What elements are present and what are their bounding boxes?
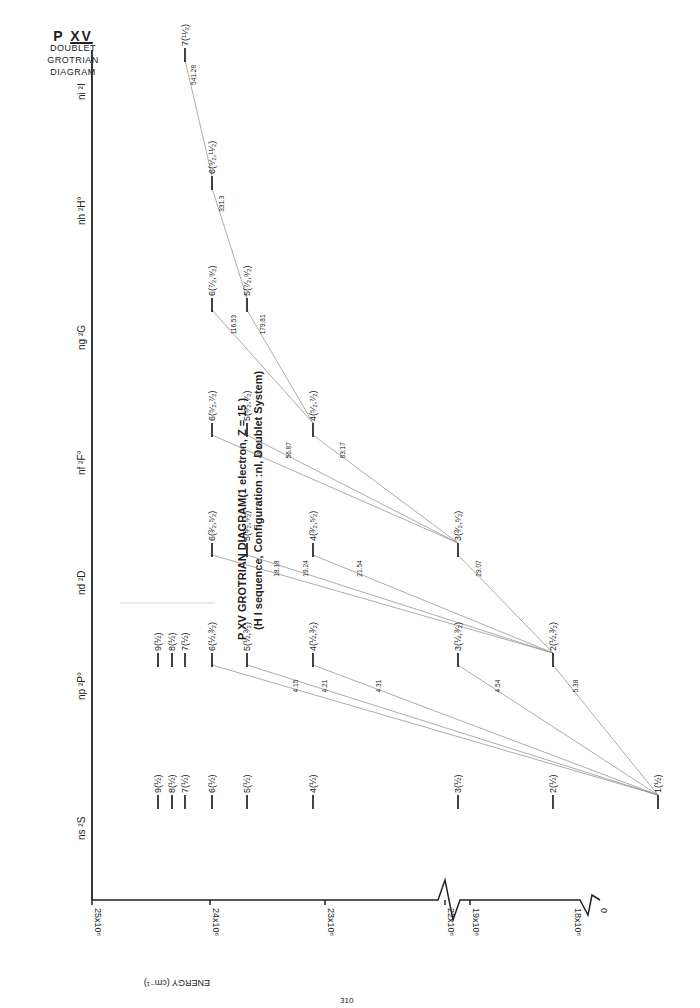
level-label: 5(⁷⁄₂,⁹⁄₂) [242, 265, 252, 296]
series-header: ns ²S [76, 816, 87, 840]
transition-wavelength: 116.53 [230, 315, 237, 335]
transition-wavelength: 4.21 [321, 679, 328, 692]
transition-wavelength: 18.18 [273, 560, 280, 577]
series-headers: ns ²Snp ²P°nd ²Dnf ²F°ng ²Gnh ²H°ni ²I [76, 83, 87, 840]
level-label: 5(½,³⁄₂) [242, 622, 252, 651]
level-label: 4(⁵⁄₂,⁷⁄₂) [308, 391, 318, 421]
transition-wavelength: 4.54 [494, 679, 501, 692]
level-label: 8(½) [167, 774, 177, 793]
level-label: 6(½,³⁄₂) [207, 622, 217, 651]
level-label: 1(½) [653, 774, 663, 793]
level-label: 4(³⁄₂,⁵⁄₂) [308, 511, 318, 541]
energy-tick-label: 25x10⁶ [93, 908, 103, 937]
level-label: 5(⁵⁄₂,⁷⁄₂) [242, 391, 252, 421]
transition-line [247, 555, 553, 653]
transition-wavelength: 29.07 [475, 560, 482, 577]
level-label: 9(½) [153, 632, 163, 651]
level-label: 2(½) [548, 774, 558, 793]
level-label: 6(³⁄₂,⁵⁄₂) [207, 511, 217, 541]
energy-axis-label: ENERGY (cm⁻¹) [144, 978, 210, 988]
transition-wavelength: 4.15 [292, 679, 299, 692]
transition-wavelength: 21.54 [356, 560, 363, 577]
level-label: 6(½) [207, 774, 217, 793]
level-label: 9(½) [153, 774, 163, 793]
transition-wavelength: 541.28 [190, 65, 197, 85]
diagram-subtitle: (H I sequence, Configuration :nl, Double… [252, 371, 264, 630]
transition-wavelength: 179.81 [259, 314, 266, 334]
transition-wavelength: 83.17 [339, 442, 346, 459]
series-header: nh ²H° [76, 197, 87, 225]
series-header: nf ²F° [76, 450, 87, 475]
energy-tick-label: 19x10⁶ [471, 908, 481, 937]
series-header: ng ²G [76, 325, 87, 350]
transition-line [458, 555, 553, 653]
energy-levels: 1(½)2(½)3(½)4(½)5(½)6(½)7(½)8(½)9(½)2(½,… [153, 24, 663, 809]
energy-tick-label: 0 [599, 908, 609, 913]
grotrian-diagram: 25x10⁶24x10⁶23x10⁶22x10⁶19x10⁶18x10⁶0 EN… [0, 0, 700, 1008]
page-number: 310 [340, 996, 354, 1005]
transition-line [313, 555, 553, 653]
level-label: 4(½) [308, 774, 318, 793]
transition-line [458, 665, 658, 795]
level-label: 6(⁷⁄₂,⁹⁄₂) [207, 265, 217, 296]
transition-wavelength: 48.53 [256, 442, 263, 459]
transition-line [247, 435, 458, 543]
level-label: 6(⁵⁄₂,⁷⁄₂) [207, 391, 217, 421]
level-label: 5(³⁄₂,⁵⁄₂) [242, 511, 252, 541]
energy-tick-label: 18x10⁶ [573, 908, 583, 937]
energy-axis-ticks: 25x10⁶24x10⁶23x10⁶22x10⁶19x10⁶18x10⁶0 [93, 908, 609, 937]
transition-wavelength: 19.24 [302, 560, 309, 577]
level-label: 2(½,³⁄₂) [548, 622, 558, 651]
level-label: 5(½) [242, 774, 252, 793]
level-label: 3(³⁄₂,⁵⁄₂) [453, 511, 463, 541]
energy-axis [92, 880, 600, 920]
energy-tick-label: 24x10⁶ [211, 908, 221, 937]
transition-wavelength: 4.31 [375, 679, 382, 692]
level-label: 7(¹¹⁄₂) [180, 24, 190, 46]
transition-wavelength: 56.87 [285, 442, 292, 459]
level-label: 3(½,³⁄₂) [453, 622, 463, 651]
level-label: 6(⁹⁄₂,¹¹⁄₂) [207, 141, 217, 174]
level-label: 3(½) [453, 774, 463, 793]
energy-tick-label: 22x10⁶ [446, 908, 456, 937]
series-header: np ²P° [76, 672, 87, 700]
transition-wavelength: 5.38 [572, 679, 579, 692]
level-label: 7(½) [180, 632, 190, 651]
transition-wavelength: 331.3 [218, 195, 225, 212]
level-label: 4(½,³⁄₂) [308, 622, 318, 651]
series-header: ni ²I [76, 83, 87, 100]
level-label: 7(½) [180, 774, 190, 793]
level-label: 8(½) [167, 632, 177, 651]
transition-line [212, 665, 658, 795]
transition-line [313, 665, 658, 795]
energy-tick-label: 23x10⁶ [326, 908, 336, 937]
series-header: nd ²D [76, 571, 87, 595]
